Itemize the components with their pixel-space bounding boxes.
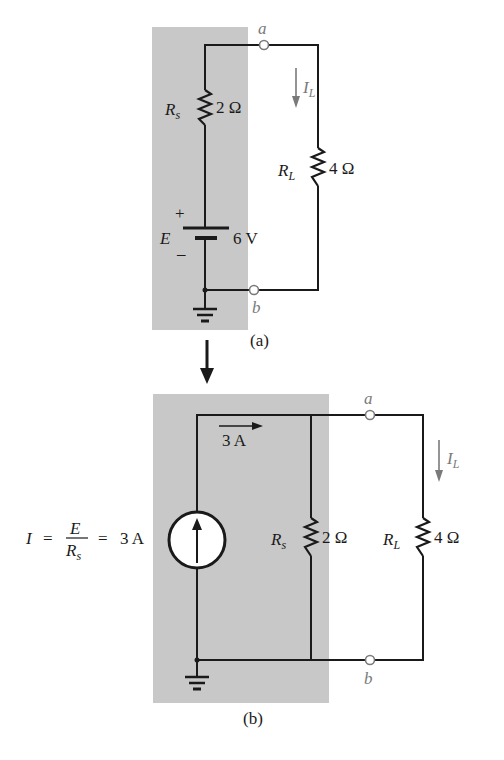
terminal-label-a: a bbox=[258, 19, 267, 38]
il-label-b: IL bbox=[446, 449, 460, 471]
load-current-arrow-a bbox=[292, 68, 300, 108]
caption-a: (a) bbox=[250, 331, 269, 350]
terminal-label-b-b: b bbox=[364, 669, 373, 688]
terminal-a-a bbox=[260, 41, 269, 50]
battery-value: 6 V bbox=[233, 229, 258, 248]
svg-text:I: I bbox=[25, 529, 33, 548]
rs-value-b: 2 Ω bbox=[322, 528, 347, 547]
conversion-arrow-icon bbox=[200, 340, 214, 384]
svg-text:=: = bbox=[43, 529, 53, 548]
svg-text:E: E bbox=[69, 519, 81, 538]
svg-text:=: = bbox=[98, 529, 108, 548]
resistor-rl-a bbox=[312, 148, 324, 186]
terminal-b-b bbox=[366, 656, 375, 665]
source-current-label: 3 A bbox=[222, 431, 247, 450]
load-current-arrow-b bbox=[435, 440, 443, 482]
battery-plus: + bbox=[175, 204, 185, 223]
current-source-icon bbox=[169, 512, 225, 568]
shaded-source-region-a bbox=[152, 27, 248, 330]
terminal-a-b bbox=[366, 411, 375, 420]
svg-text:Rs: Rs bbox=[65, 541, 81, 563]
terminal-b-a bbox=[250, 286, 259, 295]
il-label-a: IL bbox=[302, 78, 316, 100]
svg-text:3 A: 3 A bbox=[120, 529, 145, 548]
battery-label: E bbox=[159, 229, 171, 248]
figure-a: a b Rs 2 Ω RL 4 Ω IL + – E 6 V (a) bbox=[152, 19, 354, 350]
rl-label-a: RL bbox=[277, 161, 295, 183]
source-equation: I = E Rs = 3 A bbox=[25, 519, 145, 563]
resistor-rl-b bbox=[417, 518, 429, 556]
source-conversion-diagram: a b Rs 2 Ω RL 4 Ω IL + – E 6 V (a) bbox=[0, 0, 504, 760]
rs-value-a: 2 Ω bbox=[216, 98, 241, 117]
figure-b: a b 3 A IL Rs 2 Ω RL 4 Ω I = E Rs = 3 A … bbox=[25, 389, 460, 728]
caption-b: (b) bbox=[243, 709, 263, 728]
terminal-label-b: b bbox=[252, 298, 261, 317]
rl-value-a: 4 Ω bbox=[329, 159, 354, 178]
battery-minus: – bbox=[176, 244, 186, 263]
rl-label-b: RL bbox=[382, 530, 400, 552]
rl-value-b: 4 Ω bbox=[434, 528, 459, 547]
terminal-label-a-b: a bbox=[364, 389, 373, 408]
